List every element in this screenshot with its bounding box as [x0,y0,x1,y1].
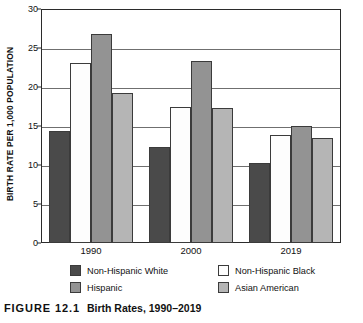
legend-swatch-icon [218,265,229,276]
bar [249,163,270,243]
y-axis-tick-mark [37,126,41,127]
legend-label: Hispanic [87,283,122,293]
bar [70,63,91,243]
y-axis-tick-mark [37,9,41,10]
figure-title: Birth Rates, 1990–2019 [87,302,201,314]
chart-legend: Non-Hispanic WhiteNon-Hispanic BlackHisp… [70,265,350,297]
x-axis-tick-label: 1990 [80,245,101,256]
bar [149,147,170,243]
bar [291,126,312,243]
bars-layer [41,9,341,243]
bar [112,93,133,243]
bar [212,108,233,243]
bar-chart: BIRTH RATE PER 1,000 POPULATION 19902000… [0,0,363,258]
legend-item[interactable]: Non-Hispanic White [70,265,168,276]
y-axis-tick-mark [37,243,41,244]
y-axis-tick-label: 10 [14,160,38,170]
bar [49,131,70,243]
legend-item[interactable]: Asian American [218,282,299,293]
y-axis-tick-label: 15 [14,121,38,131]
bar [312,138,333,243]
y-axis-tick-mark [37,48,41,49]
y-axis-tick-mark [37,87,41,88]
bar-group [149,9,233,243]
y-axis-tick-label: 5 [14,199,38,209]
x-axis-tick-label: 2000 [180,245,201,256]
legend-item[interactable]: Hispanic [70,282,122,293]
y-axis-tick-label: 0 [14,238,38,248]
figure-caption: FIGURE 12.1 Birth Rates, 1990–2019 [4,302,201,314]
legend-swatch-icon [218,282,229,293]
legend-label: Asian American [235,283,299,293]
y-axis-tick-label: 20 [14,82,38,92]
bar-group [249,9,333,243]
legend-label: Non-Hispanic White [87,266,168,276]
bar [170,107,191,244]
x-axis-labels: 199020002019 [41,245,341,259]
x-axis-tick-label: 2019 [280,245,301,256]
bar [91,34,112,243]
legend-label: Non-Hispanic Black [235,266,315,276]
y-axis-tick-label: 30 [14,4,38,14]
figure-number: FIGURE 12.1 [4,302,80,314]
bar [270,135,291,243]
y-axis-tick-label: 25 [14,43,38,53]
legend-item[interactable]: Non-Hispanic Black [218,265,315,276]
bar [191,61,212,243]
y-axis-tick-mark [37,165,41,166]
legend-swatch-icon [70,265,81,276]
y-axis-tick-mark [37,204,41,205]
figure-container: BIRTH RATE PER 1,000 POPULATION 19902000… [0,0,363,323]
legend-swatch-icon [70,282,81,293]
bar-group [49,9,133,243]
